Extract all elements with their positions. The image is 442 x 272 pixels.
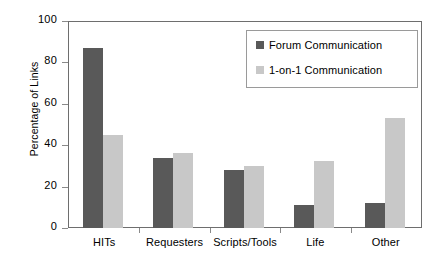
bar-group xyxy=(139,22,209,228)
bar xyxy=(153,158,173,228)
bar xyxy=(173,153,193,228)
bar-group xyxy=(69,22,139,228)
bar-chart: Percentage of Links 020406080100 HITsReq… xyxy=(0,0,442,272)
bar xyxy=(385,118,405,228)
y-axis-tick-label: 20 xyxy=(44,179,57,191)
y-axis-title: Percentage of Links xyxy=(28,29,40,189)
bar xyxy=(365,203,385,228)
bar xyxy=(83,48,103,228)
legend-item-label: Forum Communication xyxy=(269,39,382,51)
y-axis-tick-label: 80 xyxy=(44,54,57,66)
legend-swatch-icon xyxy=(256,66,264,74)
x-axis-tick-mark xyxy=(139,228,140,233)
x-axis-label: Other xyxy=(336,236,436,248)
legend-swatch-icon xyxy=(256,41,264,49)
y-axis-tick-label: 60 xyxy=(44,96,57,108)
legend-item-label: 1-on-1 Communication xyxy=(269,64,382,76)
bar xyxy=(103,135,123,228)
y-axis-tick-label: 0 xyxy=(51,220,57,232)
y-axis-tick-label: 100 xyxy=(38,13,57,25)
x-axis-tick-mark xyxy=(351,228,352,233)
x-axis-tick-mark xyxy=(280,228,281,233)
bar xyxy=(224,170,244,228)
bar xyxy=(244,166,264,228)
legend: Forum Communication 1-on-1 Communication xyxy=(246,30,418,88)
x-axis-tick-mark xyxy=(210,228,211,233)
legend-item: 1-on-1 Communication xyxy=(256,64,382,76)
y-axis-tick-label: 40 xyxy=(44,137,57,149)
legend-item: Forum Communication xyxy=(256,39,382,51)
bar xyxy=(294,205,314,228)
bar xyxy=(314,161,334,228)
y-axis-tick-mark xyxy=(62,228,68,229)
